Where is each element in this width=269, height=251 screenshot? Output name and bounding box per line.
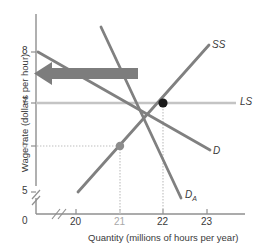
demand-curve-d xyxy=(38,52,210,150)
ls-curve-label: LS xyxy=(240,97,252,107)
x-tick-label-22: 22 xyxy=(157,217,168,227)
leftward-shift-arrow xyxy=(34,62,138,85)
y-axis-title: Wage rate (dollars per hour) xyxy=(19,54,30,172)
chart-canvas xyxy=(0,0,269,251)
da-curve-label-subscript: A xyxy=(192,195,197,202)
d-curve-label: D xyxy=(213,146,220,156)
ss-curve-label: SS xyxy=(212,40,225,50)
y-axis-title-wrapper: Wage rate (dollars per hour) xyxy=(14,48,32,178)
arrow-shaft xyxy=(52,68,138,79)
origin-label: 0 xyxy=(22,216,28,226)
equilibrium-point-initial xyxy=(158,98,167,107)
x-tick-label-21: 21 xyxy=(114,217,125,227)
supply-demand-chart: 8 7 6 5 0 20 21 22 23 SS LS D DA Quantit… xyxy=(0,0,269,251)
da-curve-label: DA xyxy=(185,190,197,202)
demand-curve-da xyxy=(101,27,181,198)
equilibrium-point-shifted xyxy=(116,142,124,150)
y-tick-label-5: 5 xyxy=(22,186,28,196)
x-axis-title: Quantity (millions of hours per year) xyxy=(88,233,238,243)
x-tick-marks xyxy=(76,209,207,214)
x-tick-label-23: 23 xyxy=(201,217,212,227)
x-tick-label-20: 20 xyxy=(70,217,81,227)
